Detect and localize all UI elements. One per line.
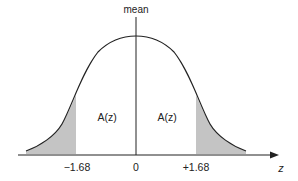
axis-label-z: z: [277, 162, 284, 174]
mean-label: mean: [123, 4, 148, 15]
tick-label-right: +1.68: [183, 161, 210, 173]
tick-label-center: 0: [133, 161, 139, 173]
right-tail-shade: [196, 95, 246, 154]
tick-label-left: −1.68: [64, 161, 91, 173]
area-label-left: A(z): [97, 111, 116, 123]
axis-arrow-icon: [270, 152, 279, 159]
left-tail-shade: [26, 95, 76, 154]
area-label-right: A(z): [157, 111, 176, 123]
normal-distribution-diagram: mean A(z) A(z) −1.68 0 +1.68 z: [0, 0, 298, 181]
